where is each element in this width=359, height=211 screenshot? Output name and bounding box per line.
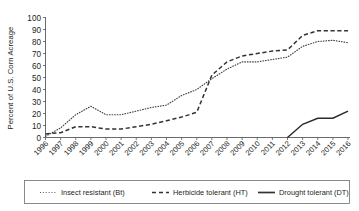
legend: Insect resistant (Bt)Herbicide tolerant … [40, 188, 349, 197]
x-tick-label: 2010 [244, 139, 262, 157]
y-tick-label: 60 [32, 62, 42, 71]
x-tick-label: 2003 [138, 139, 156, 157]
y-tick-label: 50 [32, 74, 42, 83]
x-axis-ticks: 1996199719981999200020012002200320042005… [32, 138, 353, 158]
legend-label: Herbicide tolerant (HT) [173, 188, 248, 197]
y-tick-label: 30 [32, 98, 42, 107]
legend-label: Insect resistant (Bt) [61, 188, 125, 197]
x-tick-label: 2015 [319, 139, 337, 157]
x-tick-label: 2000 [92, 139, 110, 157]
x-tick-label: 2006 [183, 139, 201, 157]
series-line-drought-tolerant [288, 111, 349, 137]
y-tick-label: 40 [32, 86, 42, 95]
x-tick-label: 1998 [62, 139, 80, 157]
x-tick-label: 2012 [274, 139, 292, 157]
x-tick-label: 2001 [107, 139, 125, 157]
x-tick-label: 2014 [304, 139, 322, 157]
x-tick-label: 2002 [123, 139, 141, 157]
x-tick-label: 2004 [153, 139, 171, 157]
chart-canvas: Percent of U.S. Corn Acreage 01020304050… [0, 0, 359, 211]
y-axis-label: Percent of U.S. Corn Acreage [6, 27, 15, 130]
y-tick-label: 90 [32, 26, 42, 35]
x-tick-label: 1999 [77, 139, 95, 157]
x-tick-label: 2013 [289, 139, 307, 157]
x-tick-label: 2009 [228, 139, 246, 157]
y-tick-label: 70 [32, 50, 42, 59]
x-tick-label: 2011 [259, 139, 277, 157]
x-tick-label: 1996 [32, 139, 50, 157]
x-tick-label: 2008 [213, 139, 231, 157]
y-axis-ticks: 0102030405060708090100 [27, 14, 45, 143]
legend-label: Drought tolerant (DT) [279, 188, 349, 197]
x-tick-label: 1997 [47, 139, 65, 157]
y-tick-label: 20 [32, 110, 42, 119]
chart-figure: Percent of U.S. Corn Acreage 01020304050… [0, 0, 359, 211]
x-tick-label: 2007 [198, 139, 216, 157]
x-tick-label: 2016 [334, 139, 352, 157]
x-tick-label: 2005 [168, 139, 186, 157]
series-line-herbicide-tolerant [46, 31, 349, 134]
y-tick-label: 10 [32, 122, 42, 131]
series-line-insect-resistant [46, 40, 349, 136]
y-tick-label: 80 [32, 38, 42, 47]
y-tick-label: 100 [27, 14, 41, 23]
